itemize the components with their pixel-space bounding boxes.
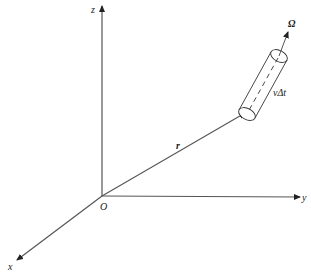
position-vector-r bbox=[102, 113, 245, 196]
origin-label: O bbox=[100, 201, 107, 212]
direction-vector-label: Ω bbox=[288, 18, 296, 29]
coordinate-diagram: z y x O r Ω vΔt bbox=[0, 0, 311, 277]
y-axis bbox=[102, 196, 300, 197]
x-axis bbox=[17, 196, 102, 260]
cylinder-length-label: vΔt bbox=[273, 87, 286, 98]
y-axis-label: y bbox=[301, 192, 307, 203]
x-axis-label: x bbox=[7, 261, 13, 272]
cylinder bbox=[236, 47, 289, 123]
position-vector-label: r bbox=[176, 140, 180, 151]
z-axis-label: z bbox=[90, 4, 95, 15]
